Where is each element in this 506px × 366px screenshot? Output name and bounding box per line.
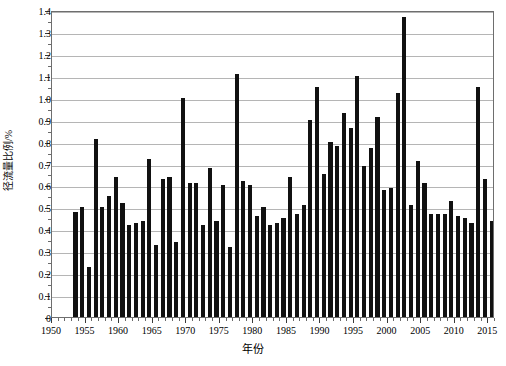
y-tick-label: 0.5 — [7, 203, 51, 214]
bar — [248, 185, 252, 317]
y-tick-mark — [45, 318, 50, 319]
bar — [73, 212, 77, 317]
bar — [201, 225, 205, 317]
bar — [80, 207, 84, 317]
x-tick-label: 2015 — [467, 325, 506, 336]
x-minor-tick-mark — [273, 318, 274, 321]
x-tick-label: 1970 — [165, 325, 205, 336]
bar — [94, 139, 98, 317]
bar — [281, 218, 285, 317]
y-tick-label: 0 — [7, 313, 51, 324]
x-tick-mark — [454, 318, 455, 323]
bar — [228, 247, 232, 317]
bar — [221, 185, 225, 317]
bar — [322, 174, 326, 317]
gridline — [52, 78, 493, 79]
x-minor-tick-mark — [132, 318, 133, 321]
bar — [463, 218, 467, 317]
y-tick-mark — [45, 230, 50, 231]
x-minor-tick-mark — [293, 318, 294, 321]
x-minor-tick-mark — [393, 318, 394, 321]
bar — [409, 205, 413, 317]
bar — [362, 166, 366, 317]
x-tick-mark — [252, 318, 253, 323]
x-axis-title-text: 年份 — [242, 343, 264, 355]
x-tick-label: 2005 — [400, 325, 440, 336]
y-tick-label: 0.2 — [7, 269, 51, 280]
y-axis-ticks: 00.10.20.30.40.50.60.70.80.91.01.11.21.3… — [0, 0, 51, 366]
y-tick-mark — [45, 274, 50, 275]
gridline — [52, 12, 493, 13]
bar — [315, 87, 319, 317]
bar — [302, 205, 306, 317]
bar — [188, 183, 192, 317]
bar — [100, 207, 104, 317]
x-minor-tick-mark — [427, 318, 428, 321]
x-tick-mark — [85, 318, 86, 323]
x-minor-tick-mark — [232, 318, 233, 321]
bar — [147, 159, 151, 317]
x-tick-mark — [319, 318, 320, 323]
x-minor-tick-mark — [306, 318, 307, 321]
bar — [396, 93, 400, 317]
x-minor-tick-mark — [380, 318, 381, 321]
bar — [241, 181, 245, 317]
gridline — [52, 275, 493, 276]
bar — [194, 183, 198, 317]
bar — [288, 177, 292, 317]
x-tick-mark — [51, 318, 52, 323]
y-tick-mark — [45, 121, 50, 122]
x-minor-tick-mark — [192, 318, 193, 321]
x-minor-tick-mark — [440, 318, 441, 321]
x-tick-label: 1965 — [132, 325, 172, 336]
x-minor-tick-mark — [299, 318, 300, 321]
x-minor-tick-mark — [400, 318, 401, 321]
bar — [141, 221, 145, 317]
bar — [483, 179, 487, 317]
gridline — [52, 231, 493, 232]
x-tick-label: 2010 — [434, 325, 474, 336]
x-tick-label: 1995 — [333, 325, 373, 336]
bar — [208, 168, 212, 317]
x-minor-tick-mark — [64, 318, 65, 321]
y-tick-mark — [45, 143, 50, 144]
x-tick-label: 1980 — [232, 325, 272, 336]
bar — [382, 190, 386, 317]
x-minor-tick-mark — [165, 318, 166, 321]
x-tick-mark — [152, 318, 153, 323]
gridline — [52, 187, 493, 188]
gridline — [52, 297, 493, 298]
x-tick-mark — [286, 318, 287, 323]
bar — [235, 74, 239, 317]
bar — [87, 267, 91, 317]
x-minor-tick-mark — [145, 318, 146, 321]
x-minor-tick-mark — [105, 318, 106, 321]
x-minor-tick-mark — [212, 318, 213, 321]
bar — [120, 203, 124, 317]
bar — [476, 87, 480, 317]
bar — [174, 242, 178, 317]
bar — [389, 188, 393, 317]
x-minor-tick-mark — [366, 318, 367, 321]
y-axis-title: 径流量比例/% — [0, 0, 16, 320]
gridline — [52, 122, 493, 123]
y-tick-mark — [45, 186, 50, 187]
x-minor-tick-mark — [373, 318, 374, 321]
bar — [154, 245, 158, 317]
x-tick-mark — [487, 318, 488, 323]
bar — [429, 214, 433, 317]
x-minor-tick-mark — [91, 318, 92, 321]
x-minor-tick-mark — [246, 318, 247, 321]
y-tick-label: 0.7 — [7, 159, 51, 170]
gridline — [52, 166, 493, 167]
runoff-proportion-bar-chart: 径流量比例/% 00.10.20.30.40.50.60.70.80.91.01… — [0, 0, 506, 366]
x-minor-tick-mark — [434, 318, 435, 321]
x-minor-tick-mark — [71, 318, 72, 321]
x-tick-label: 1975 — [199, 325, 239, 336]
gridline — [52, 209, 493, 210]
bar — [449, 201, 453, 317]
x-minor-tick-mark — [447, 318, 448, 321]
bar — [355, 76, 359, 317]
x-minor-tick-mark — [360, 318, 361, 321]
bar — [369, 148, 373, 317]
